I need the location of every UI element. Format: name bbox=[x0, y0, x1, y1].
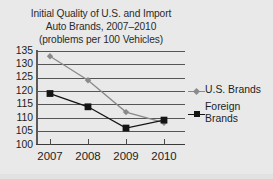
legend-label-foreign-brands: Foreign Brands bbox=[205, 101, 240, 124]
y-axis-line bbox=[36, 50, 38, 145]
y-axis-tick-labels: 135 130 125 120 115 110 105 100 bbox=[2, 0, 33, 179]
gridline-130 bbox=[36, 64, 185, 65]
diamond-marker-icon bbox=[188, 85, 205, 98]
y-tick-label-130: 130 bbox=[3, 59, 33, 69]
chart-title-line-2: Auto Brands, 2007–2010 bbox=[8, 20, 194, 33]
chart-title: Initial Quality of U.S. and Import Auto … bbox=[8, 7, 194, 47]
y-tick-label-125: 125 bbox=[3, 72, 33, 82]
chart-legend: U.S. Brands Foreign Brands bbox=[188, 84, 272, 127]
x-tick-2 bbox=[126, 139, 127, 145]
x-tick-label-2009: 2009 bbox=[106, 150, 146, 162]
x-tick-0 bbox=[50, 139, 51, 145]
gridline-110 bbox=[36, 118, 185, 119]
plot-area bbox=[36, 51, 185, 144]
x-tick-label-2008: 2008 bbox=[68, 150, 108, 162]
legend-entry-foreign-brands: Foreign Brands bbox=[188, 101, 272, 124]
y-tick-label-135: 135 bbox=[3, 46, 33, 56]
x-tick-1 bbox=[88, 139, 89, 145]
x-tick-label-2007: 2007 bbox=[30, 150, 70, 162]
y-tick-label-100: 100 bbox=[3, 140, 33, 150]
x-tick-label-2010: 2010 bbox=[144, 150, 184, 162]
gridline-120 bbox=[36, 91, 185, 92]
chart-title-line-3: (problems per 100 Vehicles) bbox=[8, 33, 194, 46]
chart-title-line-1: Initial Quality of U.S. and Import bbox=[8, 7, 194, 20]
y-tick-label-110: 110 bbox=[3, 113, 33, 123]
square-marker-icon bbox=[188, 108, 205, 121]
legend-label-us-brands: U.S. Brands bbox=[205, 84, 261, 96]
gridline-115 bbox=[36, 104, 185, 105]
x-axis-line bbox=[36, 144, 185, 145]
gridline-135 bbox=[36, 51, 185, 52]
gridline-105 bbox=[36, 131, 185, 132]
chart-figure: Initial Quality of U.S. and Import Auto … bbox=[0, 0, 273, 179]
y-tick-label-105: 105 bbox=[3, 126, 33, 136]
bottom-edge-strip bbox=[0, 174, 273, 179]
x-tick-3 bbox=[164, 139, 165, 145]
y-tick-label-115: 115 bbox=[3, 99, 33, 109]
y-tick-label-120: 120 bbox=[3, 86, 33, 96]
legend-entry-us-brands: U.S. Brands bbox=[188, 84, 272, 98]
gridline-125 bbox=[36, 78, 185, 79]
